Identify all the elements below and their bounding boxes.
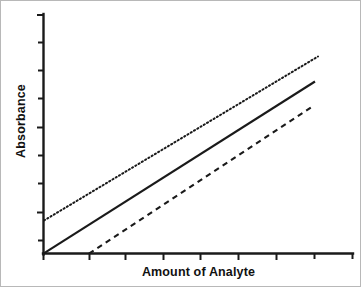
x-axis-title: Amount of Analyte [1,265,360,279]
chart-figure: Absorbance Amount of Analyte [0,0,361,287]
y-axis-title: Absorbance [0,71,141,171]
